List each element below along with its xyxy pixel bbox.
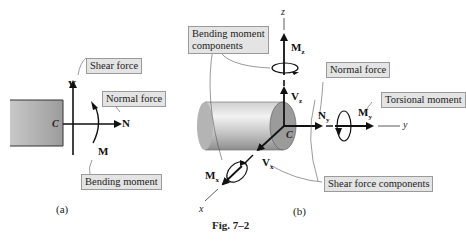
callout-normal-force-b: Normal force (326, 62, 390, 78)
point-c-a: C (52, 118, 59, 129)
callout-torsional-moment: Torsional moment (381, 92, 466, 108)
axis-y-label: y (403, 119, 407, 130)
callout-bending-moment-components: Bending moment components (188, 26, 269, 54)
symbol-mz: Mz (291, 41, 305, 56)
symbol-vx: Vx (262, 156, 273, 171)
figure-title: Fig. 7–2 (212, 219, 249, 231)
symbol-n: N (122, 117, 130, 129)
symbol-mx: Mx (205, 169, 219, 184)
callout-shear-force-components: Shear force components (324, 176, 433, 192)
symbol-my: My (358, 106, 372, 121)
callout-normal-force: Normal force (102, 91, 166, 107)
callout-line-2: components (192, 40, 265, 52)
axis-x-label: x (199, 203, 203, 214)
callout-bending-moment: Bending moment (81, 174, 162, 190)
point-c-b: C (286, 129, 293, 140)
axis-z-label: z (281, 6, 285, 17)
caption-b: (b) (293, 205, 306, 217)
symbol-m: M (98, 145, 108, 157)
symbol-vz: Vz (291, 90, 302, 105)
callout-line-1: Bending moment (192, 28, 265, 40)
callout-shear-force: Shear force (86, 58, 142, 74)
symbol-v: V (68, 78, 76, 90)
caption-a: (a) (56, 203, 68, 215)
symbol-ny: Ny (318, 109, 329, 124)
